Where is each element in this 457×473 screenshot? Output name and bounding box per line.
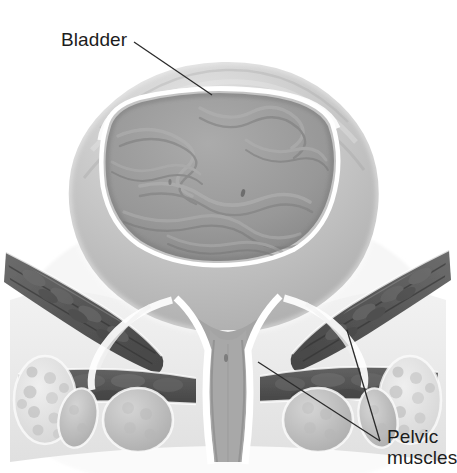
label-pelvic-muscles-line2: muscles — [387, 448, 457, 469]
bladder-lumen — [104, 91, 336, 263]
label-pelvic-muscles-line1: Pelvic — [387, 427, 457, 448]
label-bladder: Bladder — [61, 30, 127, 51]
urethra — [208, 330, 248, 462]
label-pelvic-muscles: Pelvic muscles — [387, 427, 457, 468]
